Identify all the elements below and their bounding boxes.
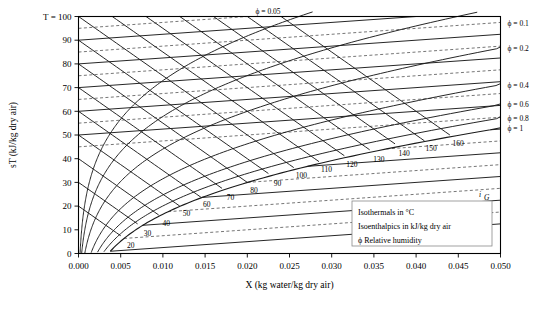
phi-right-label-0.4: ϕ = 0.4 bbox=[508, 81, 530, 90]
isenthalpic-label-30: 30 bbox=[144, 229, 152, 238]
chart-legend: Isothermals in °C Isoenthalpics in kJ/kg… bbox=[352, 201, 492, 246]
y-tick-label: 30 bbox=[63, 178, 73, 188]
x-tick-label: 0.020 bbox=[237, 261, 258, 271]
y-tick-label: 60 bbox=[63, 107, 73, 117]
y-tick-label: 90 bbox=[63, 35, 73, 45]
isenthalpic-label-160: 160 bbox=[453, 139, 465, 148]
x-tick-label: 0.040 bbox=[406, 261, 427, 271]
x-tick-label: 0.000 bbox=[68, 261, 89, 271]
x-tick-label: 0.025 bbox=[279, 261, 300, 271]
psychrometric-chart-root: 0.0000.0050.0100.0150.0200.0250.0300.035… bbox=[0, 0, 547, 309]
phi-right-label-1: ϕ = 1 bbox=[508, 124, 524, 133]
y-tick-label: 70 bbox=[63, 83, 73, 93]
isenthalpic-label-60: 60 bbox=[203, 200, 211, 209]
x-tick-label: 0.050 bbox=[490, 261, 511, 271]
enthalpy-symbol: i bbox=[479, 190, 481, 199]
phi-right-label-0.2: ϕ = 0.2 bbox=[508, 44, 530, 53]
isenthalpic-label-120: 120 bbox=[346, 160, 358, 169]
phi-top-label: ϕ = 0.05 bbox=[255, 7, 280, 16]
isenthalpic-label-140: 140 bbox=[399, 149, 411, 158]
isenthalpic-label-80: 80 bbox=[250, 186, 258, 195]
y-tick-label: 10 bbox=[63, 225, 73, 235]
x-axis-label: X (kg water/kg dry air) bbox=[245, 280, 333, 291]
legend-entry-relative-humidity: ϕ Relative humidity bbox=[358, 236, 422, 245]
temperature-corner-label: T = 100 bbox=[43, 12, 72, 22]
phi-right-label-0.8: ϕ = 0.8 bbox=[508, 114, 530, 123]
y-axis-label: sT (kJ/kg dry air) bbox=[8, 102, 19, 168]
y-tick-label: 0 bbox=[67, 249, 72, 259]
x-tick-label: 0.045 bbox=[448, 261, 469, 271]
y-tick-label: 50 bbox=[63, 130, 73, 140]
y-tick-label: 80 bbox=[63, 59, 73, 69]
phi-right-label-0.6: ϕ = 0.6 bbox=[508, 100, 530, 109]
legend-entry-isoenthalpics: Isoenthalpics in kJ/kg dry air bbox=[358, 222, 451, 231]
x-tick-label: 0.015 bbox=[195, 261, 216, 271]
isenthalpic-label-150: 150 bbox=[426, 144, 438, 153]
isenthalpic-label-50: 50 bbox=[183, 209, 191, 218]
isenthalpic-label-100: 100 bbox=[296, 171, 308, 180]
y-tick-label: 20 bbox=[63, 201, 73, 211]
isenthalpic-label-90: 90 bbox=[274, 179, 282, 188]
phi-right-label-0.1: ϕ = 0.1 bbox=[508, 19, 530, 28]
x-tick-label: 0.030 bbox=[322, 261, 343, 271]
x-tick-label: 0.010 bbox=[153, 261, 174, 271]
isenthalpic-label-110: 110 bbox=[321, 165, 332, 174]
isenthalpic-label-20: 20 bbox=[127, 241, 135, 250]
psychrometric-chart: 0.0000.0050.0100.0150.0200.0250.0300.035… bbox=[0, 0, 547, 309]
isenthalpic-label-130: 130 bbox=[373, 155, 385, 164]
legend-entry-isothermals: Isothermals in °C bbox=[358, 208, 414, 217]
isenthalpic-label-70: 70 bbox=[227, 193, 235, 202]
isenthalpic-label-40: 40 bbox=[162, 219, 170, 228]
x-tick-label: 0.005 bbox=[111, 261, 132, 271]
x-tick-label: 0.035 bbox=[364, 261, 385, 271]
y-tick-label: 40 bbox=[63, 154, 73, 164]
